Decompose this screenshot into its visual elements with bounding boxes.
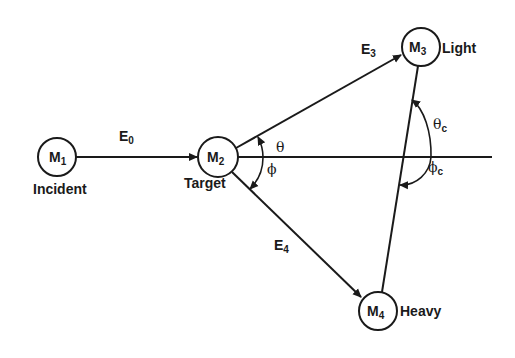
phi-arc xyxy=(250,157,263,189)
heavy-product-arrow xyxy=(232,172,361,297)
theta-label: θ xyxy=(276,139,284,155)
target-label: Target xyxy=(184,175,226,191)
phi-label: ϕ xyxy=(267,161,277,177)
particle-m1: M1 xyxy=(38,138,76,176)
theta-c-arc xyxy=(412,100,431,157)
particle-m2: M2 xyxy=(198,137,238,177)
light-label: Light xyxy=(442,40,477,56)
phi-c-label: ϕc xyxy=(428,159,444,177)
reaction-diagram: M1 Incident M2 Target M3 Light M4 Heavy … xyxy=(0,0,515,358)
incident-label: Incident xyxy=(33,181,87,197)
particle-m3: M3 xyxy=(402,28,440,66)
phi-c-arc xyxy=(400,157,431,185)
theta-c-label: θc xyxy=(433,116,447,134)
light-product-arrow xyxy=(236,55,401,148)
heavy-label: Heavy xyxy=(400,303,441,319)
energy-e3-label: E3 xyxy=(361,41,376,59)
energy-e4-label: E4 xyxy=(274,237,289,255)
particle-m4: M4 xyxy=(359,292,397,330)
energy-e0-label: E0 xyxy=(119,128,134,146)
theta-arc xyxy=(258,137,263,157)
